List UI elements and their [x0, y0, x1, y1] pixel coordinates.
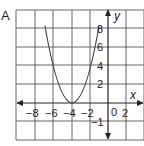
x-tick-labels: −8 −6 −4 −2 0 2	[26, 106, 128, 119]
svg-text:4: 4	[97, 60, 103, 72]
y-axis-label: y	[113, 9, 121, 23]
x-axis-label: x	[129, 88, 137, 102]
svg-text:−4: −4	[63, 107, 76, 119]
svg-text:2: 2	[97, 78, 103, 90]
grid	[16, 10, 144, 140]
svg-text:8: 8	[97, 23, 103, 35]
x-axis-right-arrow-icon	[137, 100, 144, 106]
svg-text:2: 2	[122, 107, 128, 119]
coordinate-plane: −8 −6 −4 −2 0 2 8 6 4 2 −1 y x	[0, 0, 144, 146]
svg-text:−6: −6	[45, 107, 58, 119]
svg-text:−8: −8	[26, 107, 39, 119]
y-axis-down-arrow-icon	[105, 133, 111, 140]
x-axis-left-arrow-icon	[16, 100, 23, 106]
svg-text:6: 6	[97, 41, 103, 53]
svg-text:−1: −1	[91, 116, 104, 128]
svg-text:0: 0	[111, 106, 117, 118]
